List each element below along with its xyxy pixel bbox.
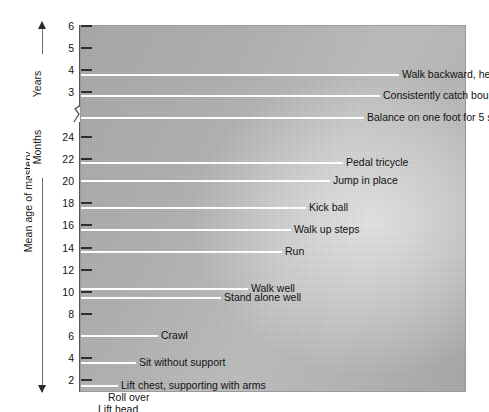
milestone-label: Stand alone well (224, 291, 301, 303)
y-tick-mark (81, 291, 92, 293)
y-tick-label: 8 (50, 308, 74, 320)
milestone-label: Consistently catch bounced ball (383, 89, 489, 101)
milestone-label: Balance on one foot for 5 seconds (367, 111, 489, 123)
y-tick-label: 24 (50, 131, 74, 143)
y-tick-mark (81, 379, 92, 381)
months-bracket-label: Months (30, 116, 44, 178)
years-bracket-label: Years (30, 54, 44, 114)
y-tick-label: 14 (50, 242, 74, 254)
y-tick-mark (81, 357, 92, 359)
y-tick-mark (81, 25, 92, 27)
y-tick-label: 4 (50, 352, 74, 364)
milestone-label: Walk up steps (294, 223, 360, 235)
y-tick-label: 2 (50, 374, 74, 386)
y-tick-mark (81, 47, 92, 49)
y-tick-mark (81, 224, 92, 226)
y-tick-label: 16 (50, 219, 74, 231)
milestone-label: Jump in place (333, 174, 398, 186)
milestone-label: Walk backward, heel to toes (402, 68, 489, 80)
milestone-leader-line (81, 229, 291, 231)
y-tick-mark (81, 313, 92, 315)
y-tick-label: 3 (50, 86, 74, 98)
milestone-leader-line (81, 207, 306, 209)
milestone-leader-line (81, 180, 330, 182)
milestone-leader-line (81, 251, 282, 253)
y-tick-label: 20 (50, 175, 74, 187)
milestone-leader-line (81, 162, 343, 164)
milestone-label: Kick ball (309, 201, 348, 213)
y-tick-label: 5 (50, 42, 74, 54)
milestone-chart-figure: Mean age of mastery Years Months 6543242… (0, 0, 489, 412)
y-tick-mark (81, 91, 92, 93)
y-tick-label: 6 (50, 20, 74, 32)
y-tick-mark (81, 158, 92, 160)
milestone-label: Run (285, 245, 304, 257)
milestone-label: Sit without support (139, 356, 225, 368)
y-tick-mark (81, 269, 92, 271)
milestone-label: Lift head (98, 403, 138, 412)
plot-area (80, 25, 466, 392)
milestone-leader-line (81, 362, 136, 364)
y-tick-mark (81, 69, 92, 71)
milestone-leader-line (81, 385, 118, 387)
milestone-label: Lift chest, supporting with arms (121, 379, 266, 391)
milestone-label: Pedal tricycle (346, 156, 408, 168)
y-tick-label: 4 (50, 64, 74, 76)
milestone-label: Crawl (161, 329, 188, 341)
y-tick-mark (81, 247, 92, 249)
y-tick-label: 22 (50, 153, 74, 165)
y-tick-label: 18 (50, 197, 74, 209)
years-arrow-up-icon (38, 21, 46, 29)
milestone-leader-line (81, 95, 380, 97)
months-arrow-down-icon (38, 385, 46, 393)
y-tick-mark (81, 136, 92, 138)
y-tick-label: 12 (50, 264, 74, 276)
milestone-leader-line (81, 117, 364, 119)
milestone-leader-line (81, 335, 158, 337)
y-tick-label: 10 (50, 286, 74, 298)
y-tick-label: 6 (50, 330, 74, 342)
y-tick-mark (81, 202, 92, 204)
milestone-leader-line (81, 74, 399, 76)
milestone-leader-line (81, 288, 248, 290)
milestone-label: Roll over (108, 391, 149, 403)
milestone-leader-line (81, 297, 221, 299)
